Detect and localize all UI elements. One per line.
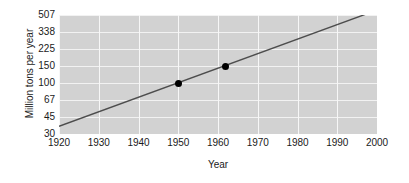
chart-figure: Million tons per year 304567100150225338… — [0, 0, 409, 183]
x-axis-tick-labels: 192019301940195019601970198019902000 — [59, 137, 377, 151]
y-tick-label: 67 — [23, 95, 55, 105]
y-tick-label: 100 — [23, 78, 55, 88]
x-tick-label: 1940 — [119, 137, 159, 149]
x-tick-label: 1950 — [158, 137, 198, 149]
y-tick-label: 338 — [23, 27, 55, 37]
y-tick-label: 150 — [23, 61, 55, 71]
x-tick-label: 1960 — [198, 137, 238, 149]
x-tick-label: 1920 — [39, 137, 79, 149]
data-point-marker — [175, 80, 182, 87]
plot-area — [59, 15, 377, 134]
y-tick-label: 225 — [23, 44, 55, 54]
x-tick-label: 1970 — [238, 137, 278, 149]
y-tick-label: 45 — [23, 112, 55, 122]
y-axis-tick-labels: 304567100150225338507 — [23, 15, 55, 134]
x-tick-label: 2000 — [357, 137, 397, 149]
x-axis-title: Year — [59, 159, 377, 171]
trend-line — [59, 15, 377, 134]
x-tick-label: 1990 — [317, 137, 357, 149]
y-tick-label: 507 — [23, 10, 55, 20]
x-tick-label: 1980 — [278, 137, 318, 149]
x-tick-label: 1930 — [79, 137, 119, 149]
